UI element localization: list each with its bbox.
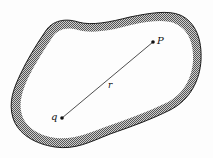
charge-q-dot [60, 116, 64, 120]
charge-q-label: q [51, 111, 57, 122]
point-p-label: P [156, 35, 164, 46]
diagram-canvas: P q r [0, 0, 213, 158]
point-p-dot [151, 40, 155, 44]
distance-r-label: r [108, 80, 113, 90]
diagram-figure: P q r [0, 0, 213, 158]
